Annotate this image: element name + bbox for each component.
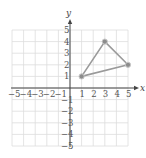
y-axis-label: y — [65, 8, 72, 18]
y-tick-label: −4 — [61, 129, 74, 139]
y-tick-label: −2 — [61, 106, 74, 116]
x-tick-label: 1 — [80, 89, 85, 99]
x-tick-label: 3 — [103, 89, 108, 99]
x-tick-label: 2 — [91, 89, 96, 99]
y-tick-label: 5 — [64, 25, 69, 35]
axes — [11, 19, 139, 147]
y-tick-label: −3 — [61, 118, 74, 128]
y-tick-label: 2 — [64, 60, 69, 70]
y-tick-label: 4 — [64, 37, 69, 47]
vertex-point — [125, 62, 130, 67]
coordinate-plane: −5−4−3−2−11234554321−1−2−3−4−5 x y — [0, 0, 146, 158]
y-axis-arrow-icon — [68, 19, 72, 24]
y-tick-label: 3 — [64, 48, 69, 58]
x-tick-label: 4 — [114, 89, 119, 99]
vertex-point — [79, 74, 84, 79]
x-axis-label: x — [140, 83, 145, 93]
x-axis-arrow-icon — [134, 86, 139, 90]
y-tick-label: −5 — [61, 141, 74, 151]
y-tick-label: 1 — [64, 71, 69, 81]
vertex-point — [102, 39, 107, 44]
x-tick-label: 5 — [126, 89, 131, 99]
y-tick-label: −1 — [61, 95, 74, 105]
